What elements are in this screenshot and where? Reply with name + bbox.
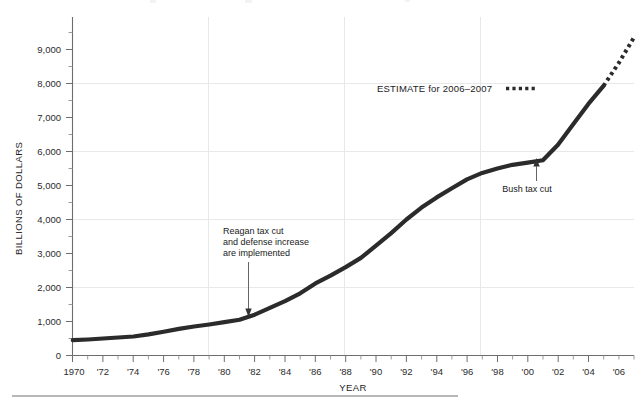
x-tick-label-1988: '88 [340, 366, 352, 377]
x-tick-label-1982: '82 [248, 366, 260, 377]
y-tick-label-0: 0 [56, 350, 61, 361]
line-chart: 0 1,000 2,000 3,000 4,000 5,000 6,000 7,… [0, 0, 644, 408]
x-axis: 1970 '72 '74 '76 '78 '80 '82 '84 '86 '88… [63, 356, 634, 394]
x-tick-label-2000: '00 [522, 366, 534, 377]
x-tick-label-1978: '78 [188, 366, 200, 377]
x-tick-label-1970: 1970 [63, 366, 84, 377]
annotation-bush-line-1: Bush tax cut [502, 184, 552, 194]
x-tick-label-1974: '74 [127, 366, 139, 377]
x-tick-label-2004: '04 [582, 366, 594, 377]
y-tick-label-8000: 8,000 [37, 78, 61, 89]
x-tick-label-1990: '90 [370, 366, 382, 377]
x-tick-label-1972: '72 [97, 366, 109, 377]
x-tick-label-1980: '80 [218, 366, 230, 377]
y-tick-label-1000: 1,000 [37, 316, 61, 327]
top-crop-artifact [150, 0, 410, 3]
y-axis: 0 1,000 2,000 3,000 4,000 5,000 6,000 7,… [13, 17, 73, 361]
annotation-reagan-line-3: are implemented [223, 248, 290, 258]
y-tick-label-2000: 2,000 [37, 282, 61, 293]
x-tick-label-2006: '06 [613, 366, 625, 377]
legend-estimate: ESTIMATE for 2006–2007 [377, 83, 538, 94]
x-tick-label-1994: '94 [431, 366, 443, 377]
x-tick-label-1986: '86 [309, 366, 321, 377]
series-estimate [604, 38, 634, 86]
x-tick-label-2002: '02 [552, 366, 564, 377]
y-tick-label-5000: 5,000 [37, 180, 61, 191]
x-axis-title: YEAR [339, 382, 366, 393]
y-tick-label-9000: 9,000 [37, 44, 61, 55]
series-actual [73, 86, 604, 340]
x-tick-label-1996: '96 [461, 366, 473, 377]
y-axis-title: BILLIONS OF DOLLARS [13, 142, 24, 255]
grid-vertical [209, 17, 481, 355]
y-tick-label-3000: 3,000 [37, 248, 61, 259]
x-tick-label-1992: '92 [400, 366, 412, 377]
y-tick-label-6000: 6,000 [37, 146, 61, 157]
annotation-reagan-line-1: Reagan tax cut [223, 226, 284, 236]
annotation-reagan-tax-cut: Reagan tax cut and defense increase are … [223, 226, 309, 317]
y-tick-label-4000: 4,000 [37, 214, 61, 225]
x-tick-label-1998: '98 [491, 366, 503, 377]
annotation-reagan-line-2: and defense increase [223, 237, 309, 247]
x-tick-label-1984: '84 [279, 366, 291, 377]
y-tick-label-7000: 7,000 [37, 112, 61, 123]
x-tick-label-1976: '76 [157, 366, 169, 377]
chart-figure: 0 1,000 2,000 3,000 4,000 5,000 6,000 7,… [0, 0, 644, 408]
legend-label: ESTIMATE for 2006–2007 [377, 83, 492, 94]
